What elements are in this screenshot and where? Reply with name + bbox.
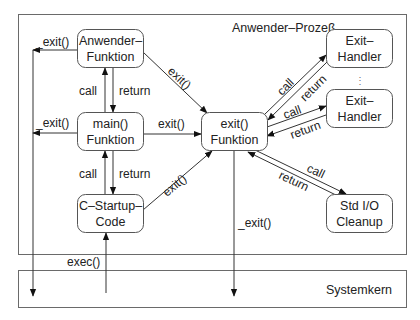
node-std-io-cleanup: Std I/O Cleanup [327, 195, 393, 233]
startup-main-call-label: call [79, 167, 97, 181]
handler-ellipsis: ⋮ [355, 75, 365, 86]
main-anwender-return-label: return [119, 84, 150, 98]
main-anwender-call-label: call [79, 84, 97, 98]
startup-main-return-label: return [119, 167, 150, 181]
node-exit-handler-2: Exit– Handler [327, 90, 393, 128]
process-title: Anwender–Prozeß [232, 21, 336, 35]
node-handler2-line1: Exit– [346, 94, 374, 108]
startup-exit-label: exit() [160, 171, 189, 199]
handler1-return-label: return [297, 72, 329, 104]
node-exit-funktion: exit() Funktion [202, 113, 268, 151]
main-underscore-exit-label: _exit() [35, 116, 69, 130]
node-exitfn-line2: Funktion [211, 133, 259, 147]
anwender-underscore-exit-label: _exit() [35, 35, 69, 49]
exitfn-underscore-exit-label: _exit() [237, 216, 271, 230]
node-main-line1: main() [93, 117, 128, 131]
handler2-call-label: call [281, 103, 303, 122]
process-exit-diagram: Anwender–Prozeß Systemkern _exit() _exit… [0, 0, 420, 320]
node-exitfn-line1: exit() [221, 117, 249, 131]
main-exit-label: exit() [158, 117, 185, 131]
node-c-startup-code: C–Startup– Code [78, 195, 144, 233]
node-stdio-line2: Cleanup [336, 215, 383, 229]
node-handler1-line1: Exit– [346, 34, 374, 48]
node-startup-line1: C–Startup– [79, 199, 142, 213]
node-main-funktion: main() Funktion [78, 113, 144, 151]
node-anwender-line2: Funktion [87, 50, 135, 64]
node-anwender-funktion: Anwender– Funktion [78, 30, 144, 68]
anwender-exit-label: exit() [165, 64, 194, 92]
node-startup-line2: Code [96, 215, 126, 229]
handler2-return-label: return [288, 118, 322, 142]
stdio-call-label: call [305, 161, 327, 181]
node-handler1-line2: Handler [338, 50, 382, 64]
node-stdio-line1: Std I/O [340, 199, 379, 213]
node-anwender-line1: Anwender– [79, 34, 142, 48]
exec-label: exec() [67, 255, 100, 269]
node-exit-handler-1: Exit– Handler [327, 30, 393, 68]
kernel-title: Systemkern [326, 283, 392, 297]
node-main-line2: Funktion [87, 133, 135, 147]
node-handler2-line2: Handler [338, 110, 382, 124]
